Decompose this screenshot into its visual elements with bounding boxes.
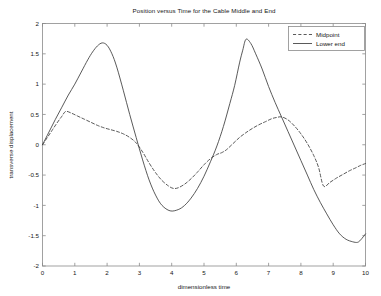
legend-label-midpoint: Midpoint	[316, 31, 340, 38]
x-tick-label: 10	[362, 269, 369, 276]
plot-canvas: 012345678910 21.510.50-0.5-1-1.5-2 dimen…	[0, 0, 381, 296]
x-tick-label: 4	[170, 269, 174, 276]
x-axis-ticks	[43, 263, 366, 266]
y-axis-tick-labels: 21.510.50-0.5-1-1.5-2	[28, 20, 39, 270]
y-axis-title: transverse displacement	[7, 111, 14, 178]
x-axis-title: dimensionless time	[178, 283, 231, 290]
x-tick-label: 8	[299, 269, 303, 276]
x-tick-label: 1	[73, 269, 77, 276]
x-tick-label: 9	[331, 269, 335, 276]
y-axis-ticks-right	[362, 24, 365, 267]
x-axis-tick-labels: 012345678910	[41, 269, 370, 276]
axes-frame	[43, 24, 366, 267]
legend-label-lower-end: Lower end	[316, 40, 345, 47]
y-tick-label: 1.5	[30, 50, 39, 57]
y-tick-label: -1	[33, 202, 39, 209]
x-tick-label: 7	[267, 269, 271, 276]
y-tick-label: 1	[36, 80, 40, 87]
x-tick-label: 5	[202, 269, 206, 276]
y-tick-label: -0.5	[28, 171, 39, 178]
x-tick-label: 2	[105, 269, 109, 276]
y-tick-label: 2	[36, 20, 40, 27]
y-tick-label: 0.5	[30, 111, 39, 118]
chart-figure: Position versus Time for the Cable Middl…	[0, 0, 381, 296]
y-tick-label: -1.5	[28, 232, 39, 239]
x-tick-label: 3	[138, 269, 142, 276]
y-tick-label: 0	[36, 141, 40, 148]
series-line-lower-end	[43, 39, 366, 242]
x-tick-label: 0	[41, 269, 45, 276]
chart-legend[interactable]: Midpoint Lower end	[289, 27, 365, 51]
x-tick-label: 6	[235, 269, 239, 276]
y-tick-label: -2	[33, 262, 39, 269]
